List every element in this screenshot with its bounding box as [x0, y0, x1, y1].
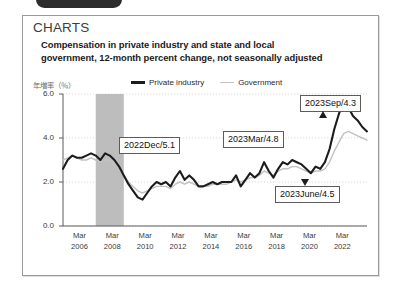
chrome-pill-button[interactable]	[36, 0, 122, 8]
y-tick-label: 2.0	[32, 177, 54, 186]
x-tick-label: Mar2008	[97, 231, 127, 252]
y-tick-label: 0.0	[32, 221, 54, 230]
x-tick-label: Mar2016	[229, 231, 259, 252]
annotation-2022dec: 2022Dec/5.1	[119, 137, 180, 154]
x-tick-label: Mar2022	[327, 231, 357, 252]
x-tick-label: Mar2012	[163, 231, 193, 252]
x-tick-label: Mar2020	[294, 231, 324, 252]
y-tick-label: 6.0	[32, 89, 54, 98]
annotation-2023sep: 2023Sep/4.3	[300, 95, 361, 112]
plot-area: 0.02.04.06.0 Mar2006Mar2008Mar2010Mar201…	[23, 16, 380, 277]
x-tick-label: Mar2006	[64, 231, 94, 252]
annotation-2023mar: 2023Mar/4.8	[223, 131, 284, 148]
x-tick-label: Mar2014	[196, 231, 226, 252]
annotation-arrow-up-icon	[319, 111, 327, 118]
x-tick-label: Mar2010	[130, 231, 160, 252]
y-tick-label: 4.0	[32, 133, 54, 142]
annotation-arrow-down-icon	[301, 179, 309, 186]
top-chrome-strip	[0, 0, 396, 15]
annotation-2023june: 2023June/4.5	[275, 186, 340, 203]
screenshot-root: CHARTS Compensation in private industry …	[0, 0, 396, 283]
x-tick-label: Mar2018	[262, 231, 292, 252]
chart-card: CHARTS Compensation in private industry …	[22, 15, 379, 276]
